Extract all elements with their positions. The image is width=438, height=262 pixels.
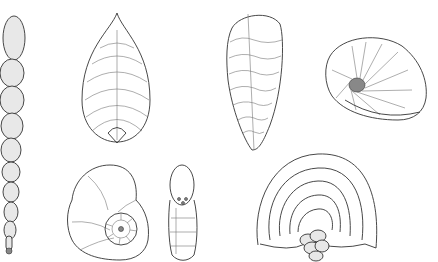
planispiral-lateral-specimen	[326, 38, 427, 120]
edge-view-specimen	[169, 165, 197, 260]
teardrop-chevron-specimen	[82, 13, 150, 143]
biserial-elongate-specimen	[227, 14, 283, 150]
fan-shaped-specimen	[257, 154, 377, 261]
trochospiral-umbilical-specimen	[68, 165, 149, 260]
fan-initial-coil	[300, 230, 329, 261]
uniserial-chain-specimen	[0, 16, 25, 254]
illustration-plate: Scientific line illustration plate of se…	[0, 0, 438, 262]
